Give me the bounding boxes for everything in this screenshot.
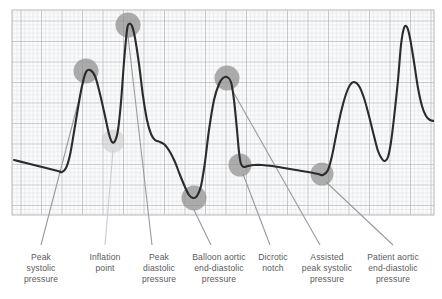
- waveform-diagram: [0, 0, 442, 299]
- marker-inflation-point: [102, 130, 125, 153]
